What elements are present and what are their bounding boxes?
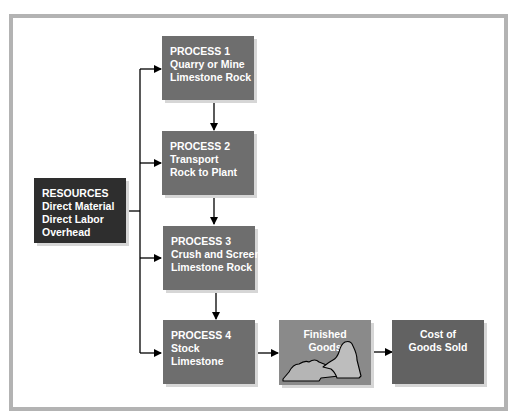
- resources-box: RESOURCES Direct Material Direct Labor O…: [34, 178, 126, 243]
- process-3-title: PROCESS 3: [171, 235, 247, 248]
- resources-overhead: Overhead: [42, 226, 118, 239]
- resources-title: RESOURCES: [42, 187, 118, 200]
- finished-goods-box: Finished Goods: [279, 320, 371, 385]
- cogs-label-2: Goods Sold: [400, 341, 476, 354]
- cost-of-goods-sold-box: Cost of Goods Sold: [392, 320, 484, 384]
- process-2-desc-2: Rock to Plant: [170, 166, 246, 179]
- cogs-label-1: Cost of: [400, 328, 476, 341]
- process-4-desc-2: Limestone: [171, 355, 247, 368]
- process-3-box: PROCESS 3 Crush and Screen Limestone Roc…: [163, 226, 255, 290]
- process-3-desc-1: Crush and Screen: [171, 248, 247, 261]
- process-1-desc-1: Quarry or Mine: [170, 58, 246, 71]
- process-1-desc-2: Limestone Rock: [170, 71, 246, 84]
- process-2-title: PROCESS 2: [170, 140, 246, 153]
- process-3-desc-2: Limestone Rock: [171, 261, 247, 274]
- resources-direct-material: Direct Material: [42, 200, 118, 213]
- rock-pile-icon: [279, 320, 371, 385]
- resources-direct-labor: Direct Labor: [42, 213, 118, 226]
- process-1-box: PROCESS 1 Quarry or Mine Limestone Rock: [162, 36, 254, 100]
- process-4-title: PROCESS 4: [171, 329, 247, 342]
- process-1-title: PROCESS 1: [170, 45, 246, 58]
- process-4-desc-1: Stock: [171, 342, 247, 355]
- process-2-box: PROCESS 2 Transport Rock to Plant: [162, 131, 254, 195]
- process-2-desc-1: Transport: [170, 153, 246, 166]
- process-4-box: PROCESS 4 Stock Limestone: [163, 320, 255, 384]
